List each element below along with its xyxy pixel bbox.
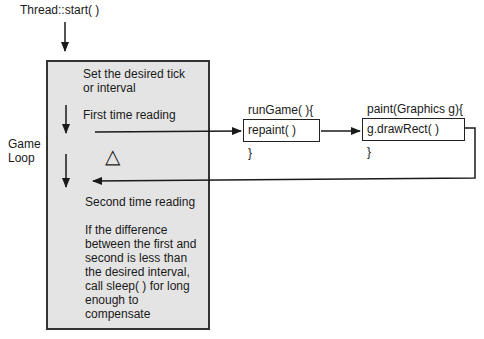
arrow-to-run-game: [95, 131, 241, 132]
return-arrow: [93, 128, 475, 181]
connector-arrows: [0, 0, 484, 339]
